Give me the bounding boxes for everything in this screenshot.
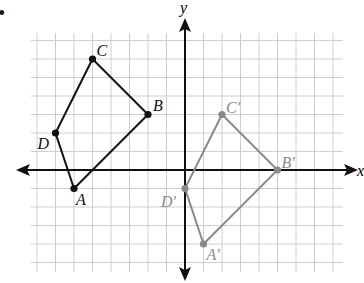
vertex-label: D' [160,193,177,210]
vertex-point-c-prime [218,111,225,118]
vertex-point-c [89,55,96,62]
y-axis-label: y [178,0,188,17]
grid [31,33,343,272]
coordinate-plane: x y • ABCD A'B'C'D' [0,0,364,283]
vertex-label: D [37,135,50,152]
polygon-abcd-image: A'B'C'D' [160,99,295,264]
vertex-label: B [153,97,163,114]
axes: x y [16,0,364,281]
bullet-marker: • [0,4,6,23]
vertex-label: A' [206,246,221,263]
vertex-point-d [52,129,59,136]
vertex-label: A [75,191,86,208]
vertex-point-b-prime [274,166,281,173]
vertex-label: C [97,42,108,59]
vertex-label: C' [226,99,241,116]
vertex-label: B' [282,154,296,171]
vertex-point-d-prime [181,185,188,192]
x-axis-label: x [356,162,364,179]
polygon-outline [185,115,278,245]
vertex-point-b [144,111,151,118]
